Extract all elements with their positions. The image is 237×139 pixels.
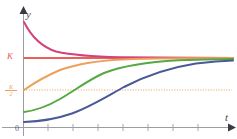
- x-axis-arrowhead: [228, 124, 236, 132]
- half-capacity-denominator: 2: [5, 91, 17, 97]
- carrying-capacity-label: K: [7, 52, 13, 61]
- x-axis-label: t: [225, 112, 228, 123]
- plot-canvas: [0, 0, 237, 139]
- logistic-growth-figure: y t K K 2 0: [0, 0, 237, 139]
- curve-logistic-start-lowest: [24, 61, 233, 123]
- origin-label: 0: [15, 125, 19, 133]
- y-axis-label: y: [26, 9, 31, 20]
- half-capacity-label: K 2: [5, 84, 17, 98]
- curve-above-capacity-decay: [24, 22, 233, 58]
- half-capacity-numerator: K: [5, 84, 17, 91]
